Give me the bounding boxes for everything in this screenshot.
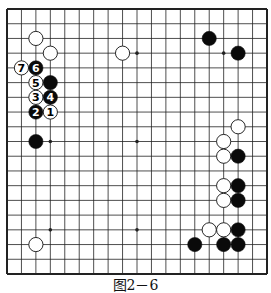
- figure-caption: 图2－6: [0, 277, 271, 293]
- black-stone: [231, 193, 245, 207]
- black-stone: 2: [29, 105, 43, 119]
- black-stone: [231, 149, 245, 163]
- black-stone: 6: [29, 61, 43, 75]
- black-stone: 4: [43, 90, 57, 104]
- black-stone: [217, 237, 231, 251]
- move-number-label: 1: [47, 106, 55, 119]
- black-stone: [29, 134, 43, 148]
- black-stone: [43, 76, 57, 90]
- stone-disc: [217, 149, 231, 163]
- move-number-label: 6: [32, 62, 40, 75]
- black-stone: [231, 223, 245, 237]
- white-stone: [217, 193, 231, 207]
- white-stone: 5: [29, 76, 43, 90]
- stone-disc: [29, 31, 43, 45]
- stone-disc: [115, 46, 129, 60]
- move-number-label: 5: [32, 77, 40, 90]
- stone-disc: [43, 76, 57, 90]
- stone-disc: [217, 223, 231, 237]
- stone-disc: [29, 134, 43, 148]
- star-point: [222, 51, 226, 55]
- white-stone: [29, 31, 43, 45]
- black-stone: [231, 46, 245, 60]
- white-stone: [217, 149, 231, 163]
- black-stone: [202, 31, 216, 45]
- stone-disc: [217, 193, 231, 207]
- star-point: [135, 51, 139, 55]
- white-stone: 3: [29, 90, 43, 104]
- move-number-label: 3: [32, 91, 40, 104]
- move-number-label: 7: [18, 62, 26, 75]
- white-stone: [217, 179, 231, 193]
- white-stone: [217, 223, 231, 237]
- white-stone: [29, 237, 43, 251]
- white-stone: 7: [14, 61, 28, 75]
- star-point: [135, 140, 139, 144]
- black-stone: [188, 237, 202, 251]
- stone-disc: [29, 237, 43, 251]
- white-stone: [231, 120, 245, 134]
- stone-disc: [217, 237, 231, 251]
- stone-disc: [217, 134, 231, 148]
- white-stone: [115, 46, 129, 60]
- star-point: [135, 228, 139, 232]
- star-point: [49, 228, 53, 232]
- stone-disc: [231, 46, 245, 60]
- stone-disc: [202, 31, 216, 45]
- stone-disc: [231, 120, 245, 134]
- stone-disc: [202, 223, 216, 237]
- stone-disc: [231, 237, 245, 251]
- stone-disc: [217, 179, 231, 193]
- white-stone: [202, 223, 216, 237]
- stone-disc: [231, 149, 245, 163]
- stone-disc: [231, 223, 245, 237]
- move-number-label: 4: [47, 91, 55, 104]
- white-stone: [217, 134, 231, 148]
- white-stone: [43, 46, 57, 60]
- move-number-label: 2: [32, 106, 40, 119]
- black-stone: [231, 237, 245, 251]
- black-stone: [231, 179, 245, 193]
- stone-disc: [231, 193, 245, 207]
- stone-disc: [43, 46, 57, 60]
- stone-disc: [188, 237, 202, 251]
- stone-disc: [231, 179, 245, 193]
- white-stone: 1: [43, 105, 57, 119]
- star-point: [49, 140, 53, 144]
